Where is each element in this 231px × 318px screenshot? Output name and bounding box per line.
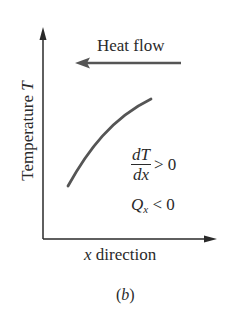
y-axis-label: Temperature T <box>19 81 36 180</box>
x-axis-label: x direction <box>84 246 156 263</box>
heat-flow-arrow-icon <box>75 58 181 69</box>
caption-close-paren: ) <box>129 286 134 303</box>
y-axis-label-text: Temperature <box>18 91 37 181</box>
flux-relation: < 0 <box>148 195 175 214</box>
heat-conduction-diagram: Heat flow Temperature T dT dx > 0 Qx < 0… <box>0 0 231 318</box>
x-axis <box>43 236 217 243</box>
flux-symbol: Q <box>131 195 143 214</box>
y-axis-arrowhead-icon <box>40 27 47 40</box>
gradient-condition: dT dx > 0 <box>131 146 176 183</box>
derivative-fraction: dT dx <box>131 146 151 183</box>
y-axis <box>40 27 47 239</box>
heat-flow-label: Heat flow <box>97 37 165 54</box>
fraction-denominator: dx <box>133 165 149 183</box>
x-axis-arrowhead-icon <box>204 236 217 243</box>
x-axis-label-variable: x <box>84 245 92 264</box>
y-axis-label-variable: T <box>18 81 37 90</box>
fraction-numerator: dT <box>131 146 151 165</box>
figure-caption: (b) <box>116 287 135 303</box>
x-axis-label-text: direction <box>92 245 157 264</box>
gradient-relation: > 0 <box>154 156 176 173</box>
flux-condition: Qx < 0 <box>131 196 175 215</box>
